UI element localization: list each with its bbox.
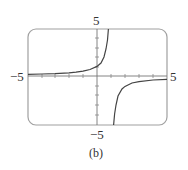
curve-left-branch bbox=[28, 29, 108, 74]
y-min-label: −5 bbox=[90, 128, 104, 141]
curve-right-branch bbox=[114, 79, 167, 125]
x-max-label: 5 bbox=[170, 70, 177, 83]
plot-frame bbox=[28, 29, 167, 125]
x-min-label: −5 bbox=[10, 70, 24, 83]
y-max-label: 5 bbox=[93, 14, 100, 27]
figure-caption: (b) bbox=[89, 147, 103, 160]
